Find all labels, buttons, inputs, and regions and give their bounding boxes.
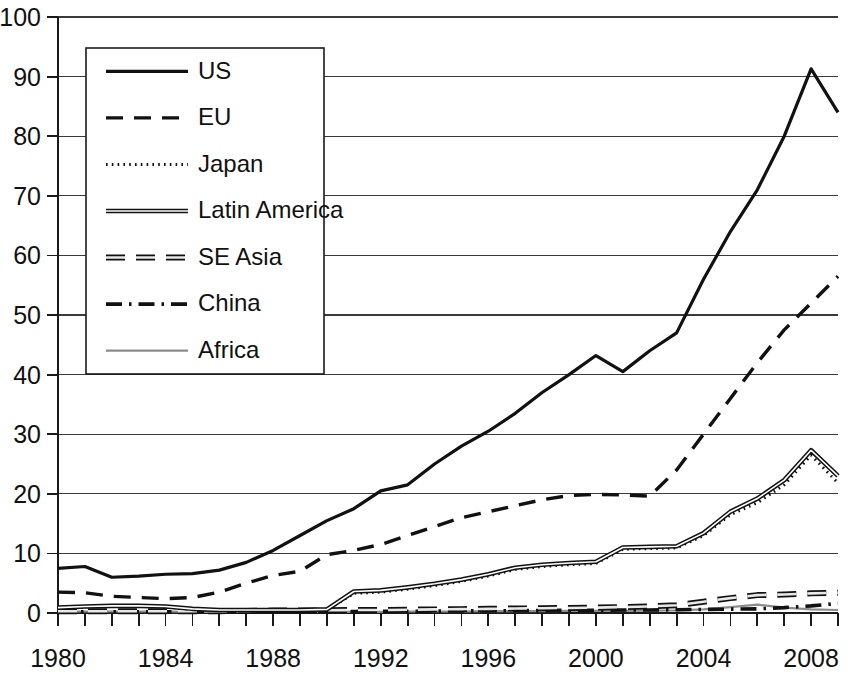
legend-label: Japan bbox=[198, 150, 263, 177]
legend-label: US bbox=[198, 57, 231, 84]
x-tick-label-1988: 1988 bbox=[245, 644, 301, 672]
legend-label: Latin America bbox=[198, 196, 344, 223]
y-tick-label-10: 10 bbox=[13, 539, 41, 567]
line-chart: 0102030405060708090100 19801984198819921… bbox=[0, 0, 852, 682]
series-latin-america bbox=[58, 450, 838, 610]
y-tick-label-60: 60 bbox=[13, 241, 41, 269]
x-tick-label-2004: 2004 bbox=[676, 644, 732, 672]
y-tick-label-40: 40 bbox=[13, 361, 41, 389]
x-tick-label-2008: 2008 bbox=[783, 644, 839, 672]
legend-label: China bbox=[198, 289, 261, 316]
chart-container: 0102030405060708090100 19801984198819921… bbox=[0, 0, 852, 682]
y-tick-label-70: 70 bbox=[13, 182, 41, 210]
y-tick-label-90: 90 bbox=[13, 63, 41, 91]
legend-label: EU bbox=[198, 103, 231, 130]
x-axis-ticks bbox=[58, 613, 838, 626]
x-tick-label-1992: 1992 bbox=[353, 644, 409, 672]
chart-legend: USEUJapanLatin AmericaSE AsiaChinaAfrica bbox=[86, 48, 344, 374]
legend-label: Africa bbox=[198, 336, 260, 363]
y-tick-label-20: 20 bbox=[13, 480, 41, 508]
x-axis-tick-labels: 19801984198819921996200020042008 bbox=[30, 644, 839, 672]
y-tick-label-30: 30 bbox=[13, 420, 41, 448]
x-tick-label-1996: 1996 bbox=[461, 644, 517, 672]
y-tick-label-80: 80 bbox=[13, 122, 41, 150]
x-tick-label-2000: 2000 bbox=[568, 644, 624, 672]
legend-label: SE Asia bbox=[198, 243, 283, 270]
x-tick-label-1980: 1980 bbox=[30, 644, 86, 672]
y-tick-label-100: 100 bbox=[0, 3, 41, 31]
series-line-layer-0 bbox=[58, 450, 838, 610]
series-line-layer-0 bbox=[58, 455, 838, 611]
y-tick-label-50: 50 bbox=[13, 301, 41, 329]
y-tick-label-0: 0 bbox=[27, 599, 41, 627]
series-line-layer-1 bbox=[58, 450, 838, 610]
y-axis-tick-labels: 0102030405060708090100 bbox=[0, 3, 41, 627]
x-tick-label-1984: 1984 bbox=[138, 644, 194, 672]
series-japan bbox=[58, 455, 838, 611]
